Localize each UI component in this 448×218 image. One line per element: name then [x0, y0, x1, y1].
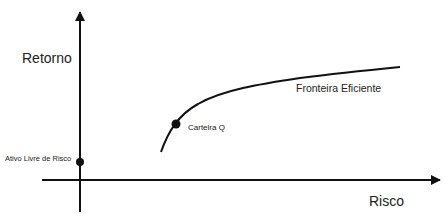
portfolio-q-point — [172, 120, 181, 129]
risk-free-point — [76, 158, 84, 166]
efficient-frontier-curve — [161, 67, 400, 152]
y-axis-label: Retorno — [22, 50, 72, 66]
portfolio-q-label: Carteira Q — [188, 123, 225, 132]
x-axis-label: Risco — [369, 193, 404, 209]
diagram-canvas — [0, 0, 448, 218]
frontier-label: Fronteira Eficiente — [296, 82, 381, 94]
risk-free-label: Ativo Livre de Risco — [5, 154, 71, 163]
